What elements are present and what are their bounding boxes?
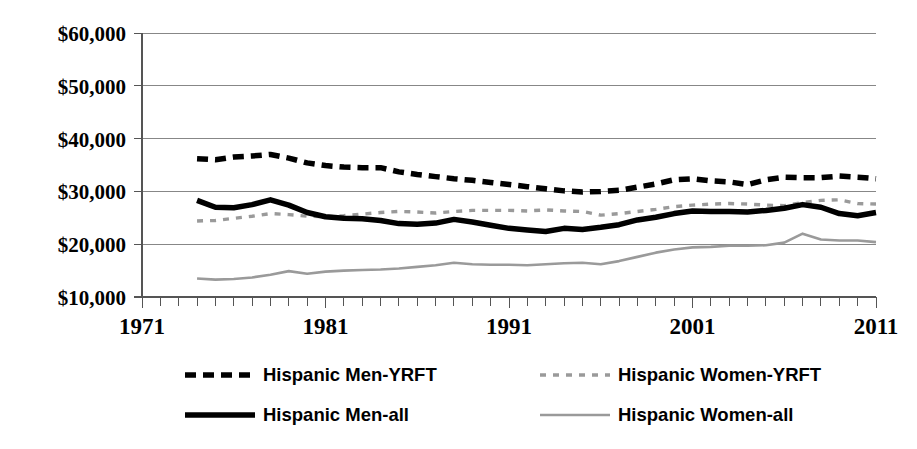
legend-label: Hispanic Men-all — [263, 404, 409, 425]
legend-label: Hispanic Women-YRFT — [618, 364, 822, 385]
chart-container: $60,000$50,000$40,000$30,000$20,000$10,0… — [0, 0, 917, 449]
y-axis-tick-label: $50,000 — [58, 75, 126, 99]
x-axis-tick-label: 2001 — [670, 314, 716, 339]
y-axis-tick-label: $10,000 — [58, 286, 126, 310]
legend-label: Hispanic Women-all — [618, 404, 793, 425]
x-axis-tick-label: 1981 — [303, 314, 349, 339]
y-axis-tick-label: $20,000 — [58, 233, 126, 257]
x-axis-tick-label: 1991 — [486, 314, 532, 339]
y-axis-tick-label: $30,000 — [58, 180, 126, 204]
y-axis-tick-label: $60,000 — [58, 22, 126, 46]
line-chart: $60,000$50,000$40,000$30,000$20,000$10,0… — [0, 0, 917, 449]
x-axis-tick-label: 2011 — [854, 314, 899, 339]
y-axis-tick-label: $40,000 — [58, 128, 126, 152]
legend-label: Hispanic Men-YRFT — [263, 364, 437, 385]
x-axis-tick-label: 1971 — [119, 314, 165, 339]
